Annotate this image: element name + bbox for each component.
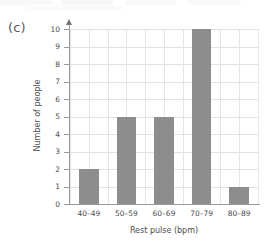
gridline-vertical: [220, 29, 221, 204]
y-tick-mark: [64, 47, 69, 48]
gridline-vertical: [145, 29, 146, 204]
y-tick-mark: [64, 152, 69, 153]
gridline-vertical: [70, 29, 71, 204]
x-axis-title: Rest pulse (bpm): [70, 226, 258, 235]
y-tick-mark: [64, 134, 69, 135]
bar-80–89: [229, 187, 249, 205]
y-tick-label: 6: [34, 95, 60, 104]
y-tick-mark: [64, 117, 69, 118]
y-tick-label: 2: [34, 165, 60, 174]
y-tick-label: 8: [34, 60, 60, 69]
y-tick-label: 10: [34, 25, 60, 34]
figure-panel: (c) Number of people 012345678910 40–495…: [0, 0, 273, 247]
gridline-vertical: [108, 29, 109, 204]
scan-artifact-secondary: [28, 6, 123, 10]
y-tick-label: 7: [34, 77, 60, 86]
scan-artifact: [0, 0, 273, 5]
bar-60–69: [154, 117, 174, 205]
y-tick-mark: [64, 99, 69, 100]
x-tick-label: 80–89: [216, 209, 262, 218]
bar-70–79: [192, 29, 212, 204]
y-tick-mark: [64, 187, 69, 188]
x-axis-line: [64, 204, 260, 205]
y-tick-label: 3: [34, 147, 60, 156]
y-tick-label: 4: [34, 130, 60, 139]
y-tick-mark: [64, 29, 69, 30]
y-tick-label: 9: [34, 42, 60, 51]
panel-label: (c): [8, 20, 26, 35]
y-tick-mark: [64, 204, 69, 205]
bar-40–49: [79, 169, 99, 204]
gridline-vertical: [239, 29, 240, 204]
y-tick-mark: [64, 82, 69, 83]
gridline-vertical: [183, 29, 184, 204]
gridline-vertical: [258, 29, 259, 204]
y-tick-label: 0: [34, 200, 60, 209]
y-tick-label: 5: [34, 112, 60, 121]
plot-area: [70, 29, 258, 204]
y-tick-mark: [64, 64, 69, 65]
bar-50–59: [117, 117, 137, 205]
y-tick-label: 1: [34, 182, 60, 191]
y-tick-mark: [64, 169, 69, 170]
